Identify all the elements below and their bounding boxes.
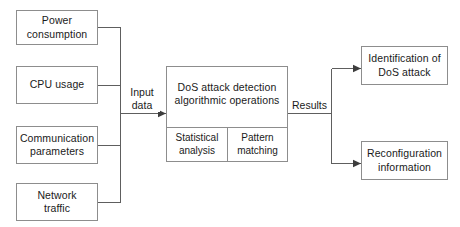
node-power-consumption[interactable]: Powerconsumption [16,10,98,45]
node-identification-of-dos-attack-line2: DoS attack [365,66,443,79]
node-reconfiguration-information-line2: information [364,161,445,174]
node-dos-attack-detection-line1: DoS attack detection [172,81,283,94]
node-pattern-matching-label: Patternmatching [237,132,278,158]
node-dos-attack-detection-line2: algorithmic operations [172,94,283,107]
node-dos-attack-detection-label: DoS attack detectionalgorithmic operatio… [169,67,286,108]
node-reconfiguration-information-label: Reconfigurationinformation [361,147,448,174]
node-communication-parameters-line1: Communication [17,132,97,145]
node-communication-parameters-line2: parameters [17,145,97,158]
node-pattern-matching[interactable]: Patternmatching [227,127,288,162]
node-identification-of-dos-attack-label: Identification ofDoS attack [362,52,446,79]
node-power-consumption-line1: Power [24,14,91,27]
node-communication-parameters[interactable]: Communicationparameters [16,126,98,164]
edge-label-input-data-line2: data [124,99,160,112]
node-reconfiguration-information-line1: Reconfiguration [364,147,445,160]
node-pattern-matching-line2: matching [237,145,278,158]
edge-label-input-data-line1: Input [124,86,160,99]
node-network-traffic[interactable]: Networktraffic [16,183,98,221]
node-network-traffic-label: Networktraffic [31,189,82,216]
arrowhead-identification [353,65,361,72]
node-identification-of-dos-attack-line1: Identification of [365,52,443,65]
node-power-consumption-line2: consumption [24,28,91,41]
diagram-canvas: Powerconsumption CPU usage Communication… [0,0,460,227]
node-statistical-analysis[interactable]: Statisticalanalysis [166,127,228,162]
node-cpu-usage-label: CPU usage [24,78,91,91]
node-identification-of-dos-attack[interactable]: Identification ofDoS attack [361,46,448,85]
edge-label-results-text: Results [292,99,327,111]
node-network-traffic-line2: traffic [34,202,79,215]
node-statistical-analysis-line2: analysis [176,145,219,158]
arrowhead-reconfiguration [353,160,361,167]
edge-label-input-data: Input data [124,86,160,112]
node-cpu-usage[interactable]: CPU usage [16,66,98,104]
node-power-consumption-label: Powerconsumption [21,14,94,41]
edge-label-results: Results [292,99,327,112]
node-statistical-analysis-label: Statisticalanalysis [176,132,219,158]
node-network-traffic-line1: Network [34,189,79,202]
node-reconfiguration-information[interactable]: Reconfigurationinformation [361,141,448,180]
node-communication-parameters-label: Communicationparameters [14,132,100,159]
node-cpu-usage-line1: CPU usage [27,78,88,91]
node-statistical-analysis-line1: Statistical [176,132,219,145]
node-pattern-matching-line1: Pattern [237,132,278,145]
